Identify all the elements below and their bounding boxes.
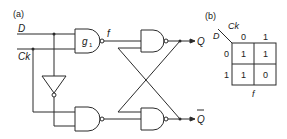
kmap-row-var: D (213, 31, 220, 41)
kmap-diagonal (218, 29, 232, 43)
kmap-col-0: 0 (241, 32, 246, 42)
part-a-label: (a) (13, 9, 24, 19)
kmap-cell-01: 1 (263, 49, 268, 59)
lower-left-bubble (100, 117, 104, 121)
kmap-cell-00: 1 (241, 49, 246, 59)
g1-bubble (100, 39, 104, 43)
kmap-row-1: 1 (224, 70, 229, 80)
kmap-caption: f (252, 89, 256, 99)
junction-ck (32, 48, 35, 51)
d-label: D (18, 23, 25, 34)
g1-subscript: 1 (89, 42, 93, 48)
q-label: Q (197, 36, 205, 47)
nand-gate-lower-right (141, 108, 164, 130)
flip-flop-diagram: (a) D Ck g 1 f Q Q (b) D Ck 0 1 0 1 1 1 … (0, 0, 287, 139)
f-label: f (107, 28, 111, 39)
kmap-row-0: 0 (224, 49, 229, 59)
inverter-gate (42, 76, 66, 93)
qbar-arrow (190, 117, 195, 121)
junction-d (53, 33, 56, 36)
kmap-cell-10: 1 (241, 70, 246, 80)
upper-right-bubble (164, 39, 168, 43)
q-arrow (190, 39, 195, 43)
qbar-label: Q (197, 114, 205, 125)
part-b-label: (b) (205, 11, 216, 21)
junction-q (179, 40, 182, 43)
kmap-col-1: 1 (263, 32, 268, 42)
nand-gate-lower-left (75, 107, 100, 131)
kmap-col-var: Ck (228, 21, 239, 31)
lower-right-bubble (164, 117, 168, 121)
junction-qbar (179, 118, 182, 121)
nand-gate-upper-right (141, 30, 164, 52)
ck-label: Ck (18, 51, 31, 62)
g1-label: g (82, 36, 88, 47)
kmap-cell-11: 0 (263, 70, 268, 80)
